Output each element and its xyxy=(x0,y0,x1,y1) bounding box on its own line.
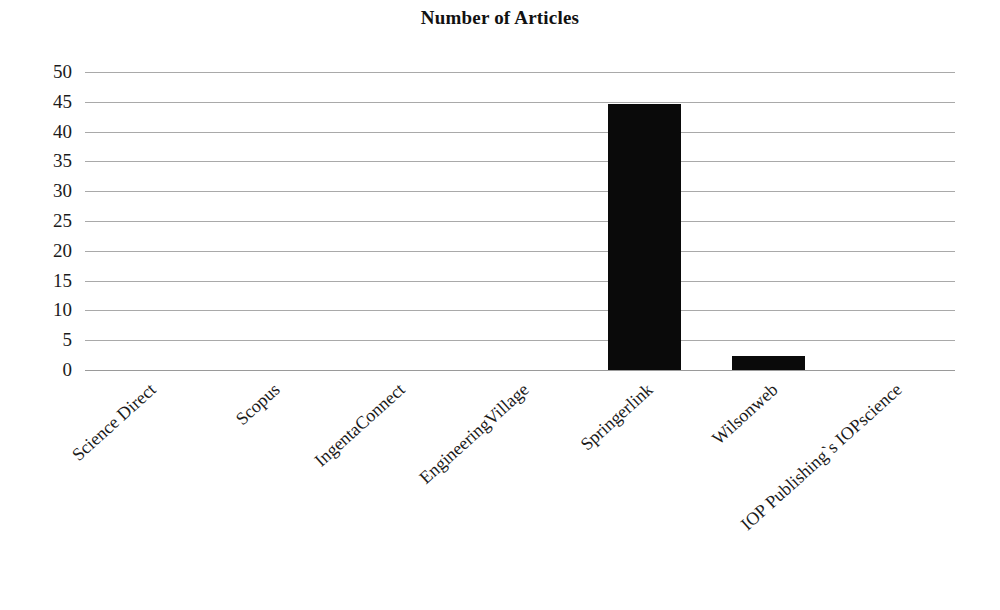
bottom-caption: … xyxy=(150,598,770,610)
x-axis-tick-label-text: Springerlink xyxy=(577,380,656,454)
x-axis-tick-label: IOP Publishing`s IOPscience xyxy=(596,380,905,610)
x-axis-tick-label: Springerlink xyxy=(347,380,656,610)
gridline xyxy=(85,340,955,341)
bar xyxy=(732,356,805,370)
x-axis-tick-label-text: Science Direct xyxy=(69,380,159,464)
y-axis-tick-label: 10 xyxy=(10,300,72,319)
x-axis-line xyxy=(85,370,955,371)
y-axis-tick-label: 35 xyxy=(10,151,72,170)
gridline xyxy=(85,161,955,162)
gridline xyxy=(85,191,955,192)
gridline xyxy=(85,281,955,282)
gridline xyxy=(85,132,955,133)
y-axis-tick-label: 45 xyxy=(10,92,72,111)
x-axis-tick-label: Scopus xyxy=(0,380,283,610)
y-axis-tick-label: 50 xyxy=(10,62,72,81)
plot-area xyxy=(85,72,955,370)
y-axis-tick-label: 0 xyxy=(10,360,72,379)
gridline xyxy=(85,310,955,311)
x-axis-tick-label: IngentaConnect xyxy=(98,380,407,610)
bar xyxy=(608,104,681,370)
y-axis-tick-labels: 50454035302520151050 xyxy=(0,72,72,370)
y-axis-tick-label: 25 xyxy=(10,211,72,230)
x-axis-tick-label-text: Scopus xyxy=(233,380,284,428)
y-axis-tick-label: 30 xyxy=(10,181,72,200)
gridline xyxy=(85,251,955,252)
gridline xyxy=(85,221,955,222)
x-axis-tick-label-text: IngentaConnect xyxy=(311,380,408,470)
y-axis-tick-label: 15 xyxy=(10,271,72,290)
y-axis-tick-label: 5 xyxy=(10,330,72,349)
x-axis-tick-label: Science Direct xyxy=(0,380,159,610)
gridline xyxy=(85,72,955,73)
y-axis-tick-label: 40 xyxy=(10,122,72,141)
x-axis-tick-label: Wilsonweb xyxy=(471,380,780,610)
chart-title: Number of Articles xyxy=(0,7,1000,29)
gridline xyxy=(85,102,955,103)
y-axis-tick-label: 20 xyxy=(10,241,72,260)
x-axis-tick-label-text: EngineeringVillage xyxy=(416,380,532,487)
x-axis-tick-label-text: IOP Publishing`s IOPscience xyxy=(737,380,905,533)
bar-chart: Number of Articles 50454035302520151050 … xyxy=(0,0,1000,610)
x-axis-tick-label: EngineeringVillage xyxy=(223,380,532,610)
x-axis-tick-label-text: Wilsonweb xyxy=(708,380,780,448)
